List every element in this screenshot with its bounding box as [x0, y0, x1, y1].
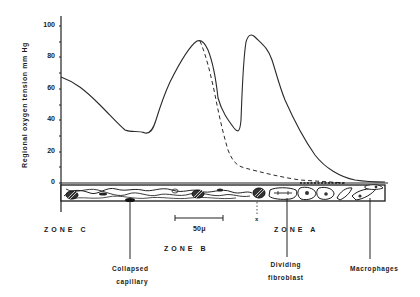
- y-tick-60: 60: [41, 84, 55, 91]
- y-tick-100: 100: [41, 21, 55, 28]
- y-axis-label: Regional oxygen tension mm Hg: [21, 42, 28, 168]
- tissue-strip: [61, 185, 385, 202]
- dividing-fibroblast-label: Dividing fibroblast: [268, 258, 304, 284]
- scale-bar: [175, 215, 223, 221]
- scale-bar-label: 50μ: [193, 225, 206, 232]
- dividing-text: Dividing: [268, 258, 304, 271]
- collapsed-text: Collapsed: [112, 262, 148, 275]
- zone-c-label: ZONE C: [44, 226, 88, 233]
- position-marker: x: [255, 216, 259, 222]
- zone-b-label: ZONE B: [164, 245, 208, 252]
- chart-canvas: [0, 0, 420, 297]
- y-tick-80: 80: [41, 52, 55, 59]
- zone-a-label: ZONE A: [274, 226, 318, 233]
- oxygen-tension-figure: Regional oxygen tension mm Hg 100 80 60 …: [0, 0, 420, 297]
- y-tick-0: 0: [41, 178, 55, 185]
- y-tick-20: 20: [41, 147, 55, 154]
- fibroblast-text: fibroblast: [268, 271, 304, 284]
- y-tick-40: 40: [41, 115, 55, 122]
- collapsed-capillary-label: Collapsed capillary: [112, 262, 148, 288]
- oxygen-curve-solid: [61, 35, 385, 182]
- macrophages-label: Macrophages: [350, 262, 399, 275]
- capillary-text: capillary: [112, 275, 148, 288]
